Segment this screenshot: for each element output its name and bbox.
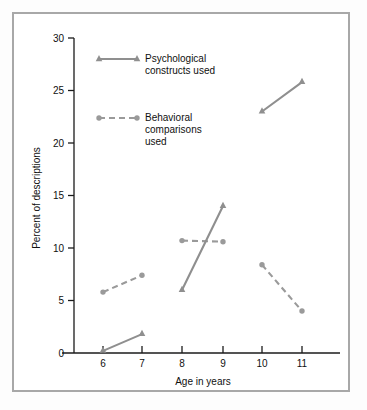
series-behavioral-segment-8-9 xyxy=(182,241,223,242)
data-point-behavioral-10 xyxy=(259,262,264,267)
y-tick-label-5: 5 xyxy=(58,295,64,306)
x-tick-label-8: 8 xyxy=(179,358,185,369)
legend-label-behavioral-line2: comparisons xyxy=(145,124,202,135)
x-axis-title: Age in years xyxy=(175,376,231,387)
data-point-psychological-11 xyxy=(299,78,306,84)
legend-swatch-marker-circle-right xyxy=(134,115,139,120)
y-tick-label-10: 10 xyxy=(53,243,65,254)
y-tick-group: 30 25 20 15 10 5 0 xyxy=(53,33,74,359)
y-tick-label-30: 30 xyxy=(53,33,65,44)
legend-label-behavioral-line1: Behavioral xyxy=(145,112,192,123)
x-tick-label-10: 10 xyxy=(256,358,268,369)
legend: Psychological constructs used Behavioral… xyxy=(96,53,215,147)
series-psychological-segment-10-11 xyxy=(262,82,302,111)
legend-swatch-marker-circle-left xyxy=(96,115,101,120)
series-behavioral-segment-10-11 xyxy=(262,265,302,311)
line-chart: 30 25 20 15 10 5 0 6 7 8 9 10 11 Age in … xyxy=(0,0,367,410)
series-psychological-segment-6-7 xyxy=(103,334,142,351)
legend-entry-behavioral: Behavioral comparisons used xyxy=(96,112,201,147)
x-tick-label-6: 6 xyxy=(100,358,106,369)
data-point-behavioral-7 xyxy=(139,273,144,278)
y-tick-label-15: 15 xyxy=(53,190,65,201)
figure-root: 30 25 20 15 10 5 0 6 7 8 9 10 11 Age in … xyxy=(0,0,367,410)
data-point-behavioral-6 xyxy=(100,289,105,294)
x-tick-label-7: 7 xyxy=(139,358,145,369)
y-tick-label-0: 0 xyxy=(58,348,64,359)
series-behavioral-segment-6-7 xyxy=(103,275,142,292)
series-psychological-segment-8-9 xyxy=(182,206,223,290)
x-tick-label-9: 9 xyxy=(220,358,226,369)
y-tick-label-25: 25 xyxy=(53,85,65,96)
x-tick-label-11: 11 xyxy=(297,358,308,369)
legend-label-psychological-line2: constructs used xyxy=(145,65,215,76)
y-tick-label-20: 20 xyxy=(53,138,65,149)
data-point-psychological-7 xyxy=(139,330,146,336)
y-axis-title: Percent of descriptions xyxy=(31,147,42,249)
series-psychological-constructs xyxy=(100,78,306,353)
legend-label-behavioral-line3: used xyxy=(145,136,167,147)
data-point-behavioral-11 xyxy=(299,308,304,313)
data-point-behavioral-8 xyxy=(179,238,184,243)
x-tick-group: 6 7 8 9 10 11 xyxy=(100,346,307,369)
legend-label-psychological-line1: Psychological xyxy=(145,53,206,64)
legend-entry-psychological: Psychological constructs used xyxy=(96,53,215,76)
data-point-behavioral-9 xyxy=(220,239,225,244)
data-point-psychological-9 xyxy=(220,202,227,208)
